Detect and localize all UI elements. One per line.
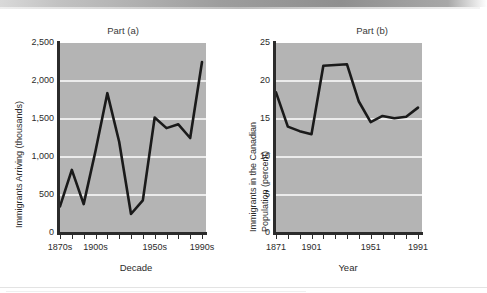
x-tick-mark bbox=[418, 235, 419, 239]
plot-area-part-b bbox=[274, 43, 422, 233]
x-tick-mark bbox=[359, 235, 360, 239]
x-tick-label: 1871 bbox=[257, 242, 295, 252]
x-tick-mark bbox=[178, 235, 179, 239]
bottom-divider bbox=[0, 287, 487, 288]
x-tick-label: 1990s bbox=[183, 242, 221, 252]
x-axis-part-b bbox=[273, 232, 423, 235]
x-tick-mark bbox=[406, 235, 407, 239]
x-axis-label-part-a: Decade bbox=[96, 262, 176, 273]
chart-panel-part-a: Part (a) 05001,0001,5002,0002,500 1870s1… bbox=[0, 0, 240, 293]
x-tick-mark bbox=[323, 235, 324, 239]
y-axis-label-line2-part-b: Population (percent) bbox=[260, 151, 270, 232]
x-tick-mark bbox=[347, 235, 348, 239]
chart-panel-part-b: Part (b) 0510152025 1871190119511991 Imm… bbox=[240, 0, 487, 293]
x-tick-label: 1950s bbox=[136, 242, 174, 252]
x-tick-mark bbox=[300, 235, 301, 239]
x-tick-mark bbox=[190, 235, 191, 239]
y-tick-label: 20 bbox=[226, 75, 270, 85]
panel-title-part-a: Part (a) bbox=[88, 25, 158, 36]
y-axis-part-b bbox=[273, 41, 276, 235]
y-axis-label-line1-part-b: Immigrants in the Canadian bbox=[248, 122, 258, 232]
data-line-part-a bbox=[58, 43, 206, 233]
x-tick-mark bbox=[60, 235, 61, 239]
x-tick-mark bbox=[107, 235, 108, 239]
x-tick-mark bbox=[143, 235, 144, 239]
x-tick-mark bbox=[131, 235, 132, 239]
x-tick-mark bbox=[84, 235, 85, 239]
x-tick-mark bbox=[276, 235, 277, 239]
x-tick-label: 1991 bbox=[399, 242, 437, 252]
x-tick-mark bbox=[394, 235, 395, 239]
x-tick-mark bbox=[119, 235, 120, 239]
x-axis-label-part-b: Year bbox=[318, 262, 378, 273]
x-tick-mark bbox=[288, 235, 289, 239]
x-tick-mark bbox=[383, 235, 384, 239]
y-axis-part-a bbox=[57, 41, 60, 235]
x-tick-mark bbox=[167, 235, 168, 239]
x-tick-mark bbox=[155, 235, 156, 239]
bottom-divider-secondary bbox=[6, 291, 306, 292]
y-tick-label: 25 bbox=[226, 37, 270, 47]
x-tick-label: 1951 bbox=[352, 242, 390, 252]
y-axis-label-part-a: Immigrants Arriving (thousands) bbox=[14, 101, 24, 228]
x-tick-mark bbox=[202, 235, 203, 239]
x-tick-label: 1901 bbox=[293, 242, 331, 252]
y-tick-label: 2,000 bbox=[10, 75, 54, 85]
x-tick-label: 1870s bbox=[41, 242, 79, 252]
chart-page: Part (a) 05001,0001,5002,0002,500 1870s1… bbox=[0, 0, 487, 293]
data-line-part-b bbox=[274, 43, 422, 233]
panel-title-part-b: Part (b) bbox=[337, 25, 407, 36]
x-tick-mark bbox=[335, 235, 336, 239]
x-tick-mark bbox=[371, 235, 372, 239]
x-tick-mark bbox=[72, 235, 73, 239]
x-axis-part-a bbox=[57, 232, 207, 235]
plot-area-part-a bbox=[58, 43, 206, 233]
x-tick-mark bbox=[96, 235, 97, 239]
x-tick-mark bbox=[312, 235, 313, 239]
y-tick-label: 0 bbox=[10, 227, 54, 237]
y-tick-label: 2,500 bbox=[10, 37, 54, 47]
x-tick-label: 1900s bbox=[77, 242, 115, 252]
